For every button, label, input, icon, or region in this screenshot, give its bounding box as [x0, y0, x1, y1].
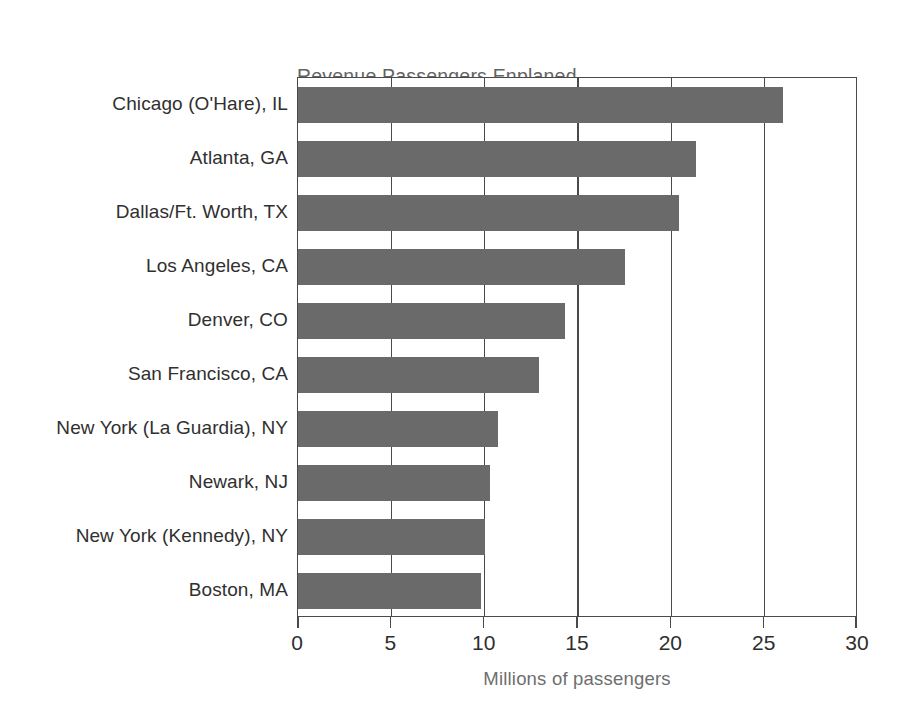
- tick-mark-5: [390, 617, 392, 628]
- bar: [298, 465, 490, 501]
- bar: [298, 573, 481, 609]
- bar-row: [298, 564, 856, 618]
- y-axis-label: Boston, MA: [0, 579, 288, 601]
- bar-row: [298, 456, 856, 510]
- y-axis-category-labels: Chicago (O'Hare), ILAtlanta, GADallas/Ft…: [0, 77, 288, 617]
- tick-mark-20: [670, 617, 672, 628]
- bar-row: [298, 402, 856, 456]
- tick-label-20: 20: [659, 630, 682, 656]
- y-axis-label: Dallas/Ft. Worth, TX: [0, 201, 288, 223]
- bar: [298, 249, 625, 285]
- y-axis-label: Atlanta, GA: [0, 147, 288, 169]
- y-axis-label: New York (La Guardia), NY: [0, 417, 288, 439]
- tick-mark-25: [763, 617, 765, 628]
- bar: [298, 195, 679, 231]
- tick-mark-15: [576, 617, 578, 628]
- bar: [298, 519, 485, 555]
- bar-row: [298, 510, 856, 564]
- bar-row: [298, 78, 856, 132]
- bar: [298, 87, 783, 123]
- bar-row: [298, 186, 856, 240]
- tick-label-30: 30: [845, 630, 868, 656]
- bar: [298, 303, 565, 339]
- y-axis-label: Denver, CO: [0, 309, 288, 331]
- x-axis-tick-marks: [297, 617, 857, 629]
- bar: [298, 357, 539, 393]
- tick-mark-10: [483, 617, 485, 628]
- tick-label-0: 0: [291, 630, 303, 656]
- y-axis-label: Chicago (O'Hare), IL: [0, 93, 288, 115]
- tick-label-15: 15: [565, 630, 588, 656]
- tick-mark-30: [855, 617, 857, 628]
- tick-label-5: 5: [384, 630, 396, 656]
- bar-row: [298, 294, 856, 348]
- bars-layer: [298, 78, 856, 616]
- tick-label-10: 10: [472, 630, 495, 656]
- bar: [298, 141, 696, 177]
- tick-mark-0: [297, 617, 299, 628]
- tick-label-25: 25: [752, 630, 775, 656]
- x-axis-tick-labels: 051015202530: [297, 630, 857, 658]
- x-axis-title: Millions of passengers: [297, 668, 857, 690]
- plot-area: [297, 77, 857, 617]
- y-axis-label: New York (Kennedy), NY: [0, 525, 288, 547]
- y-axis-label: Los Angeles, CA: [0, 255, 288, 277]
- bar-row: [298, 348, 856, 402]
- bar-row: [298, 240, 856, 294]
- y-axis-label: Newark, NJ: [0, 471, 288, 493]
- chart-figure: Revenue Passengers Enplaned— Top 10 Airp…: [0, 0, 899, 727]
- y-axis-label: San Francisco, CA: [0, 363, 288, 385]
- bar: [298, 411, 498, 447]
- bar-row: [298, 132, 856, 186]
